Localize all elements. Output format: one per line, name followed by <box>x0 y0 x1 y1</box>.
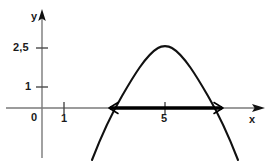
plot-canvas <box>0 0 273 162</box>
x-tick-label-5: 5 <box>161 113 167 124</box>
y-tick-label-1: 1 <box>25 81 31 92</box>
origin-label: 0 <box>31 112 37 123</box>
x-tick-label-1: 1 <box>61 113 67 124</box>
y-tick-label-2-5: 2,5 <box>13 42 29 53</box>
x-axis-label: x <box>249 114 255 125</box>
y-axis-label: y <box>31 11 37 22</box>
graph-figure: 2,5 1 0 1 5 y x <box>0 0 273 162</box>
